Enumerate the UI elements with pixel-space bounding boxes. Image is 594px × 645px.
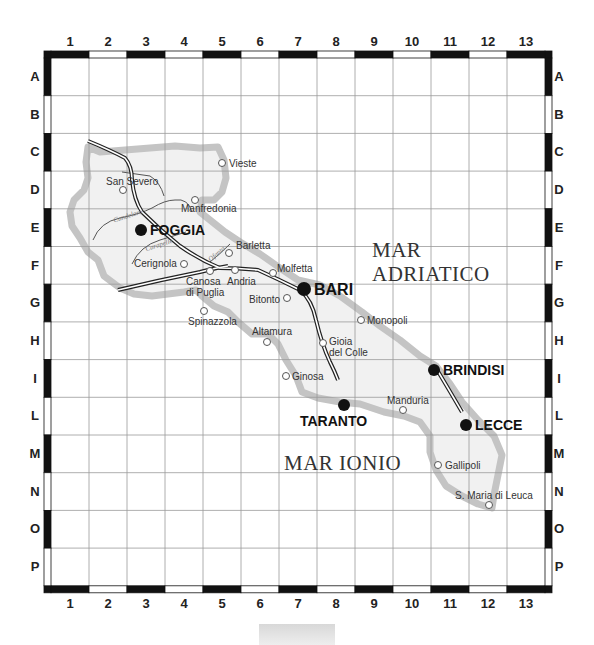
town-label-line: di Puglia [186,287,224,298]
column-label-2: 2 [89,596,127,611]
row-label-A: A [27,58,43,96]
column-label-5: 5 [203,34,241,49]
marker-cerignola[interactable] [181,261,188,268]
row-label-O: O [551,510,567,548]
column-label-10: 10 [393,34,431,49]
marker-brindisi[interactable] [428,364,440,376]
city-label-lecce[interactable]: LECCE [475,418,522,433]
row-label-I: I [27,360,43,398]
marker-bari[interactable] [297,282,311,296]
column-label-11: 11 [431,34,469,49]
column-label-6: 6 [241,34,279,49]
town-label-canosa[interactable]: Canosa di Puglia [186,276,224,298]
marker-gallipoli[interactable] [435,462,442,469]
town-label-line: del Colle [329,347,368,358]
row-label-C: C [551,133,567,171]
marker-san-severo[interactable] [120,187,127,194]
column-label-4: 4 [165,596,203,611]
marker-andria[interactable] [232,267,239,274]
row-label-D: D [551,171,567,209]
town-label-gioia[interactable]: Gioia del Colle [329,336,368,358]
marker-vieste[interactable] [219,160,226,167]
town-label-vieste[interactable]: Vieste [229,158,257,169]
marker-taranto[interactable] [338,399,350,411]
marker-altamura[interactable] [264,339,271,346]
column-label-9: 9 [355,34,393,49]
town-label-molfetta[interactable]: Molfetta [277,263,313,274]
town-label-ginosa[interactable]: Ginosa [292,371,324,382]
town-label-monopoli[interactable]: Monopoli [367,315,408,326]
row-label-O: O [27,510,43,548]
row-label-E: E [27,209,43,247]
marker-molfetta[interactable] [270,270,277,277]
marker-ginosa[interactable] [283,373,290,380]
column-label-8: 8 [317,596,355,611]
row-label-L: L [551,397,567,435]
column-label-7: 7 [279,596,317,611]
row-label-P: P [27,548,43,586]
column-label-3: 3 [127,596,165,611]
marker-spinazzola[interactable] [201,308,208,315]
town-label-manfredonia[interactable]: Manfredonia [181,203,237,214]
row-label-F: F [27,247,43,285]
town-label-andria[interactable]: Andria [227,276,256,287]
marker-lecce[interactable] [460,419,472,431]
row-label-N: N [27,473,43,511]
column-label-6: 6 [241,596,279,611]
marker-manduria[interactable] [400,407,407,414]
row-label-E: E [551,209,567,247]
row-label-G: G [27,284,43,322]
row-label-D: D [27,171,43,209]
row-label-F: F [551,247,567,285]
row-label-H: H [27,322,43,360]
row-label-H: H [551,322,567,360]
row-label-P: P [551,548,567,586]
marker-foggia[interactable] [135,224,147,236]
marker-leuca[interactable] [486,502,493,509]
row-label-N: N [551,473,567,511]
column-label-1: 1 [51,596,89,611]
row-label-M: M [27,435,43,473]
column-label-1: 1 [51,34,89,49]
town-label-barletta[interactable]: Barletta [236,240,270,251]
town-label-gallipoli[interactable]: Gallipoli [445,460,481,471]
city-label-bari[interactable]: BARI [314,282,353,297]
row-label-A: A [551,58,567,96]
column-label-13: 13 [507,34,545,49]
city-label-taranto[interactable]: TARANTO [300,414,367,429]
city-label-brindisi[interactable]: BRINDISI [443,363,504,378]
row-label-C: C [27,133,43,171]
marker-bitonto[interactable] [284,295,291,302]
bottom-tab-shape [259,624,335,645]
puglia-grid-map [0,0,594,645]
town-label-line: Canosa [186,276,224,287]
column-label-12: 12 [469,596,507,611]
grid-lines [51,58,545,586]
town-label-manduria[interactable]: Manduria [387,395,429,406]
column-label-13: 13 [507,596,545,611]
marker-canosa[interactable] [207,268,214,275]
column-label-12: 12 [469,34,507,49]
sea-label-mar-adriatico: MAR ADRIATICO [372,238,490,286]
marker-gioia[interactable] [320,340,327,347]
row-label-L: L [27,397,43,435]
town-label-spinazzola[interactable]: Spinazzola [188,316,237,327]
sea-label-mar-ionio: MAR IONIO [284,451,401,475]
column-label-8: 8 [317,34,355,49]
column-label-7: 7 [279,34,317,49]
town-label-san-severo[interactable]: San Severo [106,176,158,187]
city-label-foggia[interactable]: FOGGIA [150,223,205,238]
marker-monopoli[interactable] [358,317,365,324]
sea-label-line: MAR [372,238,490,262]
column-label-5: 5 [203,596,241,611]
sea-label-line: ADRIATICO [372,262,490,286]
row-label-M: M [551,435,567,473]
town-label-leuca[interactable]: S. Maria di Leuca [455,490,533,501]
row-label-B: B [27,96,43,134]
column-label-11: 11 [431,596,469,611]
town-label-cerignola[interactable]: Cerignola [134,258,177,269]
column-label-3: 3 [127,34,165,49]
town-label-bitonto[interactable]: Bitonto [249,294,280,305]
town-label-altamura[interactable]: Altamura [252,326,292,337]
row-label-I: I [551,360,567,398]
